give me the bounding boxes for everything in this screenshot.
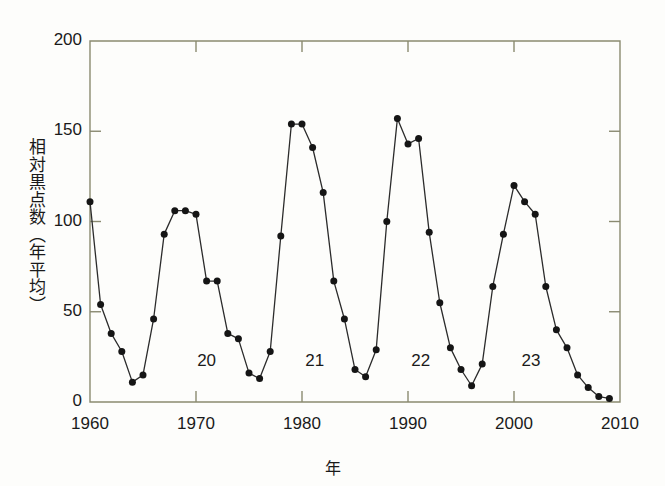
data-point-marker <box>108 330 115 337</box>
x-tick-label: 1970 <box>161 414 231 434</box>
data-point-marker <box>489 283 496 290</box>
y-tick-label: 100 <box>44 211 82 231</box>
data-point-marker <box>150 315 157 322</box>
y-tick-label: 150 <box>44 120 82 140</box>
y-tick-label: 50 <box>44 301 82 321</box>
data-point-marker <box>182 207 189 214</box>
data-point-marker <box>383 218 390 225</box>
data-point-marker <box>479 361 486 368</box>
y-axis-label-text: 相対黒点数（年平均） <box>27 138 45 313</box>
data-point-marker <box>500 231 507 238</box>
data-point-marker <box>129 379 136 386</box>
cycle-label-21: 21 <box>295 351 335 371</box>
x-tick-label: 2000 <box>479 414 549 434</box>
data-point-marker <box>542 283 549 290</box>
data-point-marker <box>362 373 369 380</box>
x-tick-label: 1990 <box>373 414 443 434</box>
data-point-marker <box>87 198 94 205</box>
data-point-marker <box>468 382 475 389</box>
data-point-marker <box>341 315 348 322</box>
data-point-marker <box>224 330 231 337</box>
sunspot-chart-figure: 相対黒点数（年平均） 年 050100150200 19601970198019… <box>0 0 665 486</box>
data-point-marker <box>140 371 147 378</box>
data-point-marker <box>235 335 242 342</box>
data-point-marker <box>521 198 528 205</box>
data-point-marker <box>373 346 380 353</box>
data-point-marker <box>277 232 284 239</box>
data-point-marker <box>585 384 592 391</box>
data-point-marker <box>118 348 125 355</box>
data-point-marker <box>458 366 465 373</box>
x-tick-label: 1960 <box>55 414 125 434</box>
x-axis-label: 年 <box>0 455 665 479</box>
data-point-marker <box>171 207 178 214</box>
data-point-marker <box>595 393 602 400</box>
data-point-marker <box>203 278 210 285</box>
cycle-label-23: 23 <box>511 351 551 371</box>
data-point-marker <box>405 140 412 147</box>
cycle-label-20: 20 <box>187 351 227 371</box>
data-point-marker <box>606 395 613 402</box>
data-point-marker <box>564 344 571 351</box>
y-tick-label: 0 <box>44 391 82 411</box>
cycle-label-22: 22 <box>401 351 441 371</box>
y-axis-label: 相対黒点数（年平均） <box>18 138 54 400</box>
data-point-marker <box>256 375 263 382</box>
data-point-marker <box>161 231 168 238</box>
data-point-marker <box>193 211 200 218</box>
data-point-marker <box>426 229 433 236</box>
data-point-marker <box>436 299 443 306</box>
data-point-marker <box>330 278 337 285</box>
data-point-marker <box>415 135 422 142</box>
y-tick-label: 200 <box>44 30 82 50</box>
data-point-marker <box>288 121 295 128</box>
x-tick-label: 2010 <box>585 414 655 434</box>
data-point-marker <box>320 189 327 196</box>
data-point-marker <box>574 371 581 378</box>
data-point-marker <box>394 115 401 122</box>
data-point-marker <box>214 278 221 285</box>
x-tick-label: 1980 <box>267 414 337 434</box>
data-point-marker <box>267 348 274 355</box>
data-point-marker <box>511 182 518 189</box>
data-point-marker <box>97 301 104 308</box>
data-point-marker <box>246 370 253 377</box>
data-point-marker <box>309 144 316 151</box>
data-point-marker <box>447 344 454 351</box>
data-point-marker <box>352 366 359 373</box>
data-point-marker <box>532 211 539 218</box>
data-point-marker <box>553 326 560 333</box>
data-point-marker <box>299 121 306 128</box>
